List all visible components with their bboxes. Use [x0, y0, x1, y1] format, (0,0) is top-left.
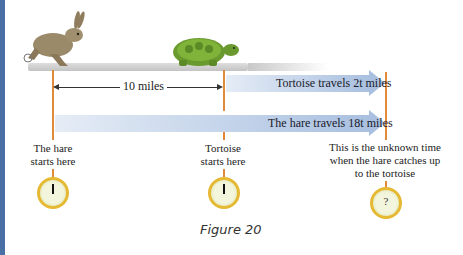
unknown-time-symbol: ?	[373, 195, 399, 207]
tortoise-start-label-line1: Tortoise	[188, 142, 258, 155]
track-ground-fade	[248, 63, 328, 71]
distance-label: 10 miles	[120, 79, 167, 94]
tortoise-start-label: Tortoise starts here	[188, 142, 258, 168]
tortoise-start-marker-lower	[223, 132, 225, 140]
tortoise-start-label-line2: starts here	[188, 155, 258, 168]
unknown-time-label-line3: to the tortoise	[325, 167, 445, 180]
clock-hand	[223, 184, 225, 194]
page-edge-bar	[0, 0, 5, 255]
unknown-time-clock-icon: ?	[370, 187, 402, 219]
tortoise-icon	[165, 30, 245, 70]
hare-start-clock-icon	[37, 177, 69, 209]
tortoise-start-clock-icon	[208, 177, 240, 209]
hare-travel-label: The hare travels 18t miles	[268, 116, 393, 131]
hare-start-label-line2: starts here	[18, 155, 88, 168]
unknown-time-label: This is the unknown time when the hare c…	[325, 141, 445, 180]
hare-start-label-line1: The hare	[18, 142, 88, 155]
clock-hand	[52, 184, 54, 194]
dimension-arrow-right	[217, 84, 223, 90]
tortoise-travel-label: Tortoise travels 2t miles	[276, 76, 391, 91]
tortoise-start-marker-upper	[223, 70, 225, 111]
unknown-time-label-line1: This is the unknown time	[325, 141, 445, 154]
hare-icon	[20, 10, 90, 70]
hare-start-label: The hare starts here	[18, 142, 88, 168]
dimension-arrow-left	[53, 84, 59, 90]
hare-start-marker	[52, 70, 54, 140]
unknown-time-label-line2: when the hare catches up	[325, 154, 445, 167]
figure-caption: Figure 20	[200, 222, 262, 237]
